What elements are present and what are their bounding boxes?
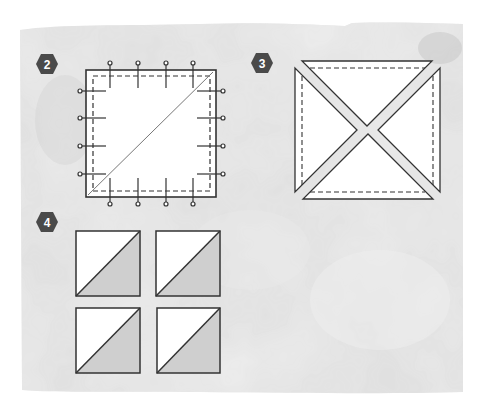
pinned-square [78, 61, 225, 206]
step-number-3: 3 [259, 57, 266, 71]
hst-unit [76, 308, 140, 373]
quilt-instruction-diagram: 2 [0, 0, 483, 404]
step-number-4: 4 [44, 216, 51, 230]
hst-unit [76, 231, 140, 296]
hst-unit [156, 231, 220, 296]
hst-unit [157, 308, 220, 373]
step-number-2: 2 [44, 58, 51, 72]
